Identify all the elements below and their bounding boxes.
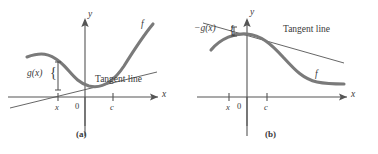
y-axis-label-b: y: [250, 8, 254, 18]
brace-a: {: [50, 66, 57, 80]
panel-b: y x x 0 c −g(x) { f Tangent line (b): [189, 0, 378, 154]
x-axis-label-b: x: [351, 90, 355, 100]
origin-label-a: 0: [75, 102, 79, 111]
tangent-line-label-b: Tangent line: [283, 25, 330, 35]
curve-f-b: [211, 34, 344, 84]
y-axis-label-a: y: [88, 10, 92, 20]
c-tick-label-a: c: [110, 103, 114, 112]
curve-label-f-a: f: [141, 20, 144, 30]
curve-label-f-b: f: [315, 70, 318, 80]
x-axis-label-a: x: [162, 90, 166, 100]
c-tick-label-b: c: [264, 103, 268, 112]
figure-container: y x x 0 c g(x) { f Tangent line (a): [0, 0, 378, 154]
x-axis-a: [8, 93, 158, 100]
tangent-line-label-a: Tangent line: [95, 75, 142, 85]
brace-b: {: [229, 23, 235, 36]
x-tick-label-a: x: [55, 103, 59, 112]
panel-a: y x x 0 c g(x) { f Tangent line (a): [0, 0, 189, 154]
gap-label-a: g(x): [27, 69, 42, 79]
panel-caption-a: (a): [76, 130, 87, 139]
x-tick-label-b: x: [226, 103, 230, 112]
x-axis-b: [197, 93, 347, 100]
gap-label-b: −g(x): [194, 24, 216, 34]
panel-caption-b: (b): [265, 130, 276, 139]
origin-label-b: 0: [237, 102, 241, 111]
